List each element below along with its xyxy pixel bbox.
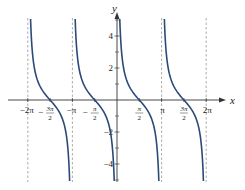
cotangent-chart: x y −2π−3π2−π−π2π2π3π22π42−2−4	[0, 0, 245, 190]
x-tick-label: π	[160, 105, 165, 115]
axes: x y	[8, 2, 235, 182]
x-tick-label: −2π	[20, 105, 35, 115]
x-axis-label: x	[229, 94, 235, 106]
x-tick-label: 2π	[203, 105, 213, 115]
x-tick-label: π	[93, 105, 97, 113]
x-tick-label: 2	[93, 114, 97, 122]
y-tick-label: 2	[109, 63, 114, 73]
x-tick-label: 2	[48, 114, 52, 122]
x-tick-label: 3π	[46, 105, 55, 113]
y-axis-label: y	[111, 2, 117, 14]
x-tick-label: 2	[138, 114, 142, 122]
x-tick-label: −π	[67, 105, 77, 115]
x-tick-label: 3π	[179, 105, 188, 113]
y-tick-label: −4	[103, 159, 113, 169]
x-tick-label: −	[38, 107, 43, 117]
x-tick-label: π	[138, 105, 142, 113]
x-tick-label: −	[83, 107, 88, 117]
x-tick-label: 2	[182, 114, 186, 122]
y-tick-label: 4	[109, 31, 114, 41]
x-axis-arrow-icon	[219, 98, 226, 103]
